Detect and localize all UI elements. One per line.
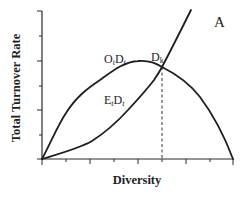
y-axis-ticks <box>37 11 42 135</box>
x-axis-title: Diversity <box>113 173 162 187</box>
label-otdt: OtDt <box>104 52 127 67</box>
x-axis-ticks <box>42 159 233 165</box>
panel-label: A <box>214 14 225 30</box>
label-etdt: EtDt <box>104 93 125 108</box>
chart: OtDt EtDt Dk A Diversity Total Turnover … <box>0 0 247 203</box>
series-etdt-curve <box>42 10 191 159</box>
y-axis-title: Total Turnover Rate <box>9 33 23 142</box>
series-otdt-curve <box>42 61 233 159</box>
label-dk: Dk <box>151 50 164 65</box>
